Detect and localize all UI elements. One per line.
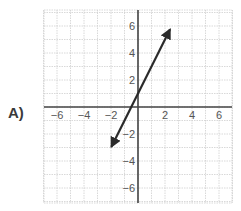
y-tick-label: −6 [122,182,135,194]
y-tick-label: −4 [122,155,135,167]
y-tick-label: 6 [129,20,135,32]
y-tick-label: 2 [129,74,135,86]
coordinate-plane: −6−4−2246642−2−4−6 [0,0,241,211]
y-tick-label: −2 [122,128,135,140]
x-tick-label: −4 [78,109,91,121]
axes [44,10,232,203]
y-tick-label: 4 [129,47,135,59]
x-tick-label: 2 [162,109,168,121]
x-tick-label: 6 [216,109,222,121]
x-tick-label: −6 [51,109,64,121]
x-tick-label: 4 [189,109,195,121]
line-y-equals-2x-plus-1 [112,30,170,146]
plotted-line [112,30,170,146]
x-tick-label: −2 [105,109,118,121]
